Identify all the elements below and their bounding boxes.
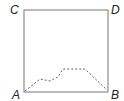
label-d: D xyxy=(111,3,120,17)
diagram-canvas: C D A B xyxy=(0,0,124,101)
label-a: A xyxy=(11,88,20,101)
square xyxy=(24,10,108,92)
dashed-path xyxy=(25,69,107,91)
label-c: C xyxy=(10,3,19,17)
label-b: B xyxy=(111,88,119,101)
